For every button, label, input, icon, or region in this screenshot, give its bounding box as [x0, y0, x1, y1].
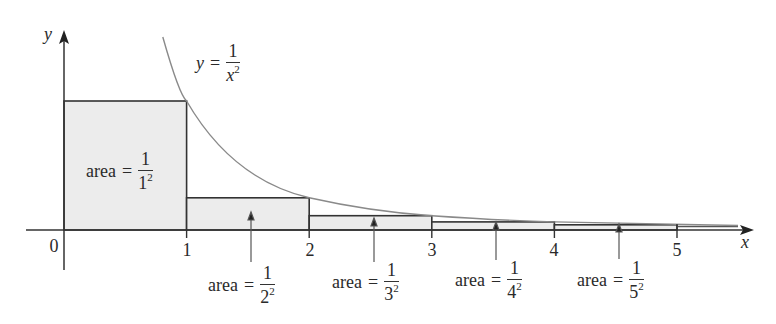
- area-label-5: area= 152: [577, 259, 644, 301]
- curve-label: y = 1 x2: [196, 42, 240, 84]
- x-axis-label: x: [741, 232, 749, 253]
- area-label-3: area= 132: [332, 261, 399, 303]
- tick-3: 3: [428, 240, 437, 261]
- rect-2: [187, 198, 310, 230]
- tick-1: 1: [183, 240, 192, 261]
- tick-4: 4: [550, 240, 559, 261]
- tick-2: 2: [306, 240, 315, 261]
- y-axis-label: y: [44, 24, 52, 45]
- rect-5: [554, 225, 677, 230]
- rectangles: [64, 101, 677, 230]
- tick-0: 0: [50, 236, 59, 257]
- area-label-1: area= 112: [86, 150, 153, 192]
- area-label-2: area= 122: [208, 264, 275, 306]
- rect-3: [309, 216, 432, 230]
- tick-5: 5: [673, 240, 682, 261]
- area-label-4: area= 142: [455, 259, 522, 301]
